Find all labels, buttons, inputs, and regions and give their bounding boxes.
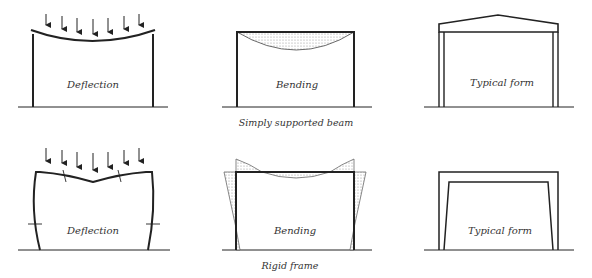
deflected-frame (34, 172, 154, 250)
label-bending: Bending (275, 79, 318, 90)
frame-outer (439, 172, 558, 250)
load-arrows (46, 148, 139, 170)
panel-deflection-simple: Deflection (18, 14, 168, 107)
panel-typical-form-simple: Typical form (424, 15, 574, 107)
label-typical-form: Typical form (468, 225, 532, 236)
frame-inner (444, 182, 553, 250)
caption-simply-supported: Simply supported beam (239, 117, 353, 128)
inflection-marks (28, 170, 160, 224)
panel-bending-simple: Bending (222, 31, 372, 107)
label-bending: Bending (273, 225, 316, 236)
pitched-roof (439, 15, 558, 32)
structural-diagram: Deflection Bending Typical form Simply s… (0, 0, 592, 278)
row-simply-supported: Deflection Bending Typical form Simply s… (18, 14, 574, 128)
label-deflection: Deflection (66, 225, 119, 236)
label-deflection: Deflection (66, 79, 119, 90)
panel-typical-form-rigid: Typical form (424, 172, 574, 250)
load-arrows (46, 14, 139, 34)
moment-diagram (237, 32, 354, 50)
panel-bending-rigid: Bending (222, 159, 372, 250)
panel-deflection-rigid: Deflection (18, 148, 170, 250)
label-typical-form: Typical form (470, 77, 534, 88)
caption-rigid-frame: Rigid frame (261, 260, 319, 271)
row-rigid-frame: Deflection Bending Typical for (18, 148, 574, 271)
